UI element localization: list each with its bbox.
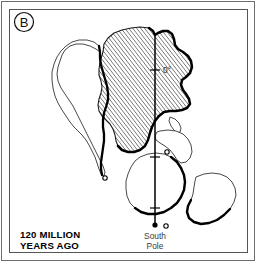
panel-letter-badge: B [15,13,34,32]
marker-india [165,150,169,154]
meridian-label: 0° [163,65,171,75]
south-pole-label-line1: South [144,231,166,241]
south-pole-label-line2: Pole [147,241,164,251]
panel-letter-label: B [20,15,29,30]
caption-line-2: YEARS AGO [20,240,79,251]
south-pole-dot [152,222,157,227]
marker-antarctica [164,224,168,228]
figure-panel-b: B [0,0,257,263]
paleogeographic-map: B [0,0,257,263]
marker-south-america [103,176,107,180]
caption-line-1: 120 MILLION [20,229,80,240]
